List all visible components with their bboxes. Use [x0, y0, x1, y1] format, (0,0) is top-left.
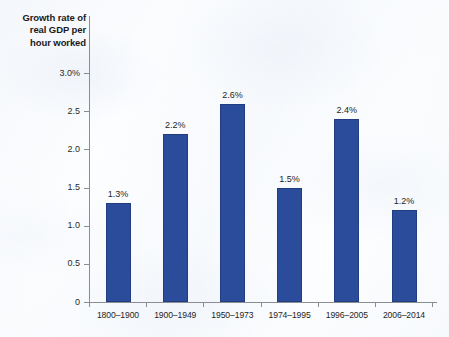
x-axis-tick	[89, 303, 90, 307]
y-axis-tick-label: 1.0	[20, 221, 80, 230]
bar-value-label: 2.4%	[317, 106, 377, 115]
x-axis-tick	[318, 303, 319, 307]
y-axis-tick-label: 1.5	[20, 183, 80, 192]
x-axis-tick	[432, 303, 433, 307]
y-axis-line	[89, 16, 90, 303]
y-axis-tick-label: 0.5	[20, 259, 80, 268]
bar	[392, 210, 417, 302]
bar-value-label: 1.5%	[260, 175, 320, 184]
x-axis-tick	[146, 303, 147, 307]
y-axis-tick-label: 2.5	[20, 107, 80, 116]
bar	[334, 119, 359, 302]
bar-value-label: 2.6%	[202, 91, 262, 100]
x-axis-tick	[203, 303, 204, 307]
x-axis-line	[89, 302, 437, 303]
y-axis-tick	[84, 226, 89, 227]
chart-title-line-2: real GDP per	[2, 24, 86, 36]
bar	[277, 188, 302, 303]
y-axis-tick	[84, 73, 89, 74]
y-axis-tick	[84, 111, 89, 112]
bar	[163, 134, 188, 302]
y-axis-tick	[84, 264, 89, 265]
x-axis-tick	[261, 303, 262, 307]
y-axis-tick-label: 2.0	[20, 145, 80, 154]
chart-page: Growth rate of real GDP per hour worked …	[0, 0, 449, 337]
chart-title-line-3: hour worked	[2, 37, 86, 49]
x-axis-tick	[375, 303, 376, 307]
bar	[220, 104, 245, 302]
y-axis-tick	[84, 188, 89, 189]
bar-value-label: 2.2%	[145, 121, 205, 130]
y-axis-tick-label: 0	[20, 298, 80, 307]
x-axis-category-label: 2006–2014	[369, 310, 439, 320]
chart-title: Growth rate of real GDP per hour worked	[2, 12, 86, 49]
y-axis-tick-label: 3.0%	[20, 69, 80, 78]
y-axis-tick	[84, 149, 89, 150]
chart-title-line-1: Growth rate of	[2, 12, 86, 24]
bar	[106, 203, 131, 302]
bar-value-label: 1.3%	[88, 190, 148, 199]
bar-value-label: 1.2%	[374, 197, 434, 206]
